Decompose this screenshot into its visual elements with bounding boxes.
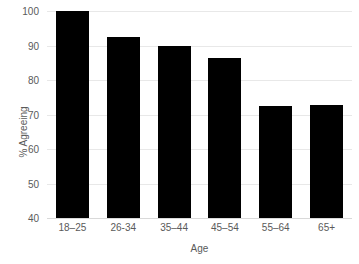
y-tick-label: 40 — [11, 213, 39, 224]
bar — [56, 11, 89, 218]
y-tick-label: 80 — [11, 75, 39, 86]
x-axis-tick-labels: 18–2526-3435–4445–5455–6465+ — [47, 222, 352, 236]
y-tick-label: 50 — [11, 178, 39, 189]
x-axis-title: Age — [47, 243, 352, 254]
x-tick-label: 18–25 — [59, 222, 87, 233]
x-tick-label: 55–64 — [262, 222, 290, 233]
gridline-40 — [47, 218, 352, 219]
x-tick-label: 65+ — [318, 222, 335, 233]
x-tick-label: 26-34 — [110, 222, 136, 233]
x-tick-label: 35–44 — [160, 222, 188, 233]
y-tick-label: 90 — [11, 40, 39, 51]
bar — [208, 58, 241, 218]
bar — [259, 106, 292, 218]
bars-layer — [47, 11, 352, 218]
y-axis-title: % Agreeing — [18, 106, 29, 157]
y-tick-label: 100 — [11, 6, 39, 17]
bar — [107, 37, 140, 218]
bar — [158, 46, 191, 218]
bar-chart: 405060708090100 % Agreeing 18–2526-3435–… — [0, 0, 359, 264]
x-tick-label: 45–54 — [211, 222, 239, 233]
bar — [310, 105, 343, 218]
